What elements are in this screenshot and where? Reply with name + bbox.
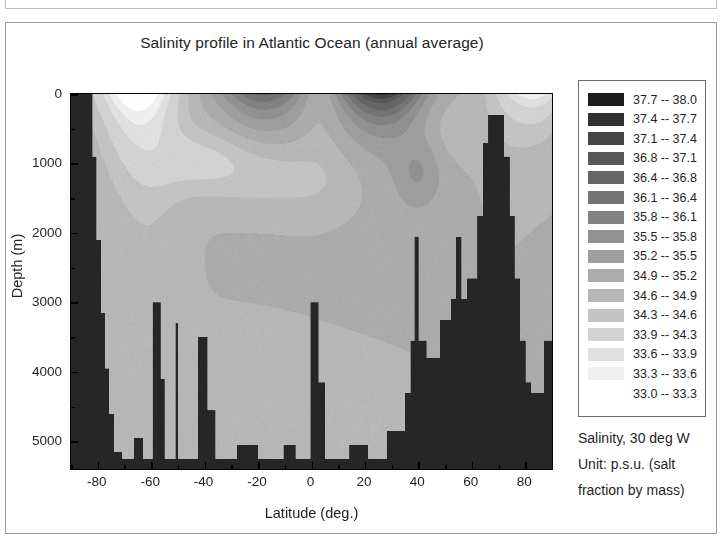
caption-line-2: Unit: p.s.u. (salt xyxy=(578,451,718,477)
legend-color-swatch xyxy=(588,250,624,263)
y-tick-label: 2000 xyxy=(32,224,62,239)
legend-color-swatch xyxy=(588,387,624,400)
x-tick-label: -40 xyxy=(194,474,214,489)
legend-color-swatch xyxy=(588,289,624,302)
legend-range-label: 34.3 -- 34.6 xyxy=(633,308,697,322)
legend-row: 33.9 -- 34.3 xyxy=(588,326,700,343)
legend-range-label: 37.1 -- 37.4 xyxy=(633,132,697,146)
x-tick-major xyxy=(418,462,420,469)
legend-color-swatch xyxy=(588,93,624,106)
y-tick-major xyxy=(71,94,78,96)
legend-color-swatch xyxy=(588,171,624,184)
y-tick-major xyxy=(71,163,78,165)
legend-color-swatch xyxy=(588,132,624,145)
top-strip-panel xyxy=(5,0,717,9)
legend-range-label: 33.0 -- 33.3 xyxy=(633,387,697,401)
legend-caption: Salinity, 30 deg W Unit: p.s.u. (salt fr… xyxy=(578,425,718,503)
legend-row: 36.4 -- 36.8 xyxy=(588,169,700,186)
y-tick-label: 0 xyxy=(54,86,62,101)
legend-row: 36.8 -- 37.1 xyxy=(588,150,700,167)
x-tick-label: 80 xyxy=(517,474,532,489)
x-tick-minor xyxy=(285,465,287,469)
y-tick-minor xyxy=(71,268,75,270)
legend-row: 37.7 -- 38.0 xyxy=(588,91,700,108)
legend-range-label: 36.8 -- 37.1 xyxy=(633,151,697,165)
x-tick-minor xyxy=(231,465,233,469)
legend-range-label: 33.3 -- 33.6 xyxy=(633,367,697,381)
legend-row: 36.1 -- 36.4 xyxy=(588,189,700,206)
x-tick-major xyxy=(472,462,474,469)
legend-color-swatch xyxy=(588,113,624,126)
y-tick-minor xyxy=(71,337,75,339)
y-tick-label: 5000 xyxy=(32,433,62,448)
legend-row: 35.2 -- 35.5 xyxy=(588,248,700,265)
x-axis-tick-labels: -80-60-40-20020406080 xyxy=(70,474,553,496)
x-tick-minor xyxy=(499,465,501,469)
legend-row: 35.5 -- 35.8 xyxy=(588,228,700,245)
y-tick-minor xyxy=(71,129,75,131)
legend-range-label: 34.6 -- 34.9 xyxy=(633,289,697,303)
x-tick-minor xyxy=(338,465,340,469)
y-tick-minor xyxy=(71,407,75,409)
legend-range-label: 34.9 -- 35.2 xyxy=(633,269,697,283)
legend-color-swatch xyxy=(588,328,624,341)
legend-range-label: 36.4 -- 36.8 xyxy=(633,171,697,185)
legend-range-label: 35.2 -- 35.5 xyxy=(633,249,697,263)
legend-row: 34.3 -- 34.6 xyxy=(588,307,700,324)
y-tick-major xyxy=(71,302,78,304)
x-tick-label: -80 xyxy=(87,474,107,489)
legend-range-label: 37.7 -- 38.0 xyxy=(633,93,697,107)
x-tick-major xyxy=(151,462,153,469)
legend-row: 33.3 -- 33.6 xyxy=(588,365,700,382)
legend-row: 35.8 -- 36.1 xyxy=(588,209,700,226)
legend-range-label: 35.5 -- 35.8 xyxy=(633,230,697,244)
x-tick-major xyxy=(365,462,367,469)
x-tick-label: -20 xyxy=(247,474,267,489)
legend-range-label: 33.6 -- 33.9 xyxy=(633,347,697,361)
legend-row: 33.6 -- 33.9 xyxy=(588,346,700,363)
screenshot-root: Salinity profile in Atlantic Ocean (annu… xyxy=(0,0,722,542)
legend-row: 33.0 -- 33.3 xyxy=(588,385,700,402)
x-tick-major xyxy=(312,462,314,469)
caption-line-1: Salinity, 30 deg W xyxy=(578,425,718,451)
x-tick-major xyxy=(258,462,260,469)
x-tick-minor xyxy=(178,465,180,469)
legend-color-swatch xyxy=(588,309,624,322)
x-tick-label: 60 xyxy=(463,474,478,489)
x-tick-minor xyxy=(392,465,394,469)
x-tick-major xyxy=(525,462,527,469)
legend-range-label: 37.4 -- 37.7 xyxy=(633,112,697,126)
x-tick-label: 40 xyxy=(410,474,425,489)
plot-area xyxy=(70,93,553,470)
x-tick-major xyxy=(205,462,207,469)
legend-row: 37.1 -- 37.4 xyxy=(588,130,700,147)
legend-row: 34.6 -- 34.9 xyxy=(588,287,700,304)
x-tick-minor xyxy=(552,465,553,469)
x-tick-major xyxy=(98,462,100,469)
salinity-contour-field xyxy=(71,94,552,469)
legend-range-label: 35.8 -- 36.1 xyxy=(633,210,697,224)
y-axis-title: Depth (m) xyxy=(9,206,25,326)
legend-color-swatch xyxy=(588,211,624,224)
x-tick-label: 20 xyxy=(356,474,371,489)
legend-color-swatch xyxy=(588,191,624,204)
y-tick-minor xyxy=(71,198,75,200)
chart-title: Salinity profile in Atlantic Ocean (annu… xyxy=(70,34,554,52)
x-tick-label: -60 xyxy=(140,474,160,489)
y-tick-label: 3000 xyxy=(32,294,62,309)
legend-color-swatch xyxy=(588,152,624,165)
caption-line-3: fraction by mass) xyxy=(578,477,718,503)
x-tick-minor xyxy=(445,465,447,469)
x-tick-minor xyxy=(124,465,126,469)
x-tick-label: 0 xyxy=(307,474,315,489)
legend-row: 37.4 -- 37.7 xyxy=(588,111,700,128)
legend-color-swatch xyxy=(588,230,624,243)
legend-color-swatch xyxy=(588,269,624,282)
legend-row: 34.9 -- 35.2 xyxy=(588,267,700,284)
x-axis-title: Latitude (deg.) xyxy=(70,505,553,521)
legend-range-label: 36.1 -- 36.4 xyxy=(633,191,697,205)
y-tick-label: 1000 xyxy=(32,155,62,170)
y-tick-label: 4000 xyxy=(32,363,62,378)
legend-range-label: 33.9 -- 34.3 xyxy=(633,328,697,342)
y-tick-major xyxy=(71,233,78,235)
